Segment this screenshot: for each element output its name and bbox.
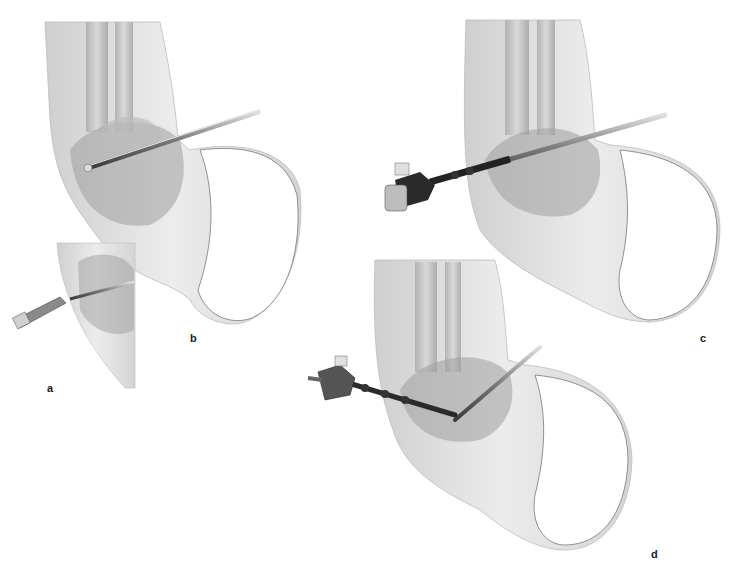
ankle-arthroscopy-illustration — [0, 0, 729, 577]
illustration-canvas — [0, 0, 729, 577]
panel-a-inset — [12, 243, 135, 388]
panel-label-b: b — [190, 332, 197, 344]
panel-label-a: a — [47, 382, 53, 394]
panel-label-c: c — [700, 332, 706, 344]
panel-d-drawing — [308, 260, 632, 550]
panel-label-d: d — [651, 548, 658, 560]
